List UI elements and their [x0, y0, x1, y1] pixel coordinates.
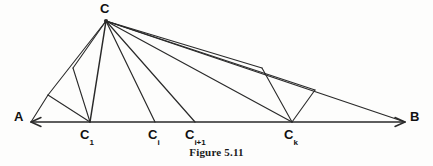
vertex-label-ci: Ci	[148, 128, 160, 145]
cevian-C-Ci	[106, 21, 155, 122]
segment-P1-C	[48, 21, 106, 95]
cevian-C-C1	[90, 21, 106, 122]
vertex-label-ck-base: C	[284, 127, 293, 142]
segment-P2-C	[73, 21, 106, 68]
segment-P1-C1	[48, 95, 90, 122]
segment-P4-Ck	[292, 90, 315, 122]
figure-caption: Figure 5.11	[0, 146, 433, 158]
vertex-label-ci-base: C	[148, 127, 157, 142]
vertex-label-ci-plus-1-base: C	[185, 127, 194, 142]
vertex-label-ci-plus-1: Ci+1	[185, 128, 206, 145]
vertex-label-c: C	[100, 2, 109, 15]
figure-container: A B C C1 Ci Ci+1 Ck Figure 5.11	[0, 0, 433, 166]
geometry-diagram	[0, 0, 433, 166]
vertex-point-C	[104, 19, 108, 23]
vertex-label-ck: Ck	[284, 128, 298, 145]
segment-P2-C1	[73, 68, 90, 122]
vertex-label-c1: C1	[80, 128, 94, 145]
vertex-label-a: A	[14, 110, 23, 123]
vertex-label-b: B	[410, 110, 419, 123]
vertex-label-c1-base: C	[80, 127, 89, 142]
cevian-C-P3	[106, 21, 262, 68]
